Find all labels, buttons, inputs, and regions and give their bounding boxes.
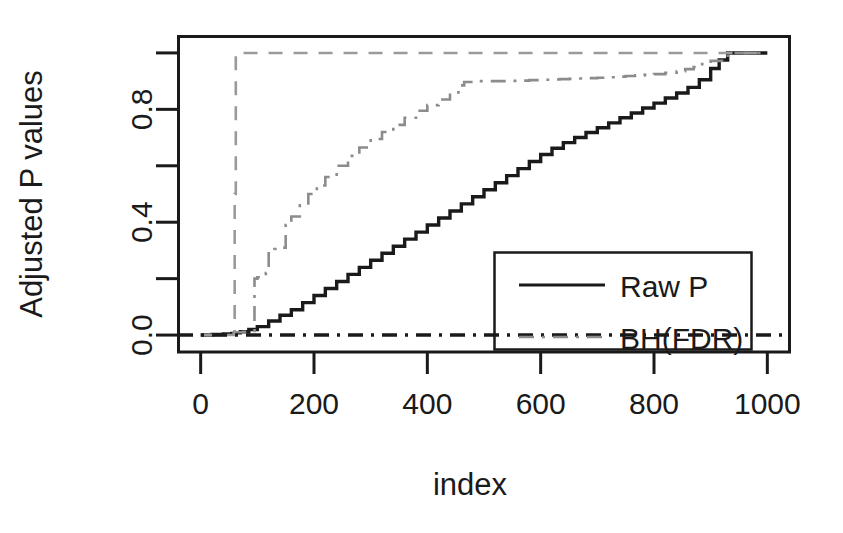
y-tick-label-2: 0.4 [126,201,159,243]
x-tick-label-2: 400 [402,387,452,420]
legend-label-1: BH(FDR) [620,322,743,355]
plot-canvas: 0.00.40.8 02004006008001000 Adjusted P v… [0,0,843,533]
x-tick-label-4: 800 [629,387,679,420]
y-axis-title: Adjusted P values [14,70,49,318]
x-tick-label-5: 1000 [734,387,801,420]
x-tick-label-1: 200 [289,387,339,420]
x-tick-label-3: 600 [516,387,566,420]
legend-label-0: Raw P [620,270,708,303]
figure-background [0,0,843,533]
y-tick-label-4: 0.8 [126,88,159,130]
chart-figure: 0.00.40.8 02004006008001000 Adjusted P v… [0,0,843,533]
y-tick-label-0: 0.0 [126,314,159,356]
x-axis-title: index [433,467,508,502]
x-tick-label-0: 0 [192,387,209,420]
y-axis-tick-labels: 0.00.40.8 [126,88,159,355]
